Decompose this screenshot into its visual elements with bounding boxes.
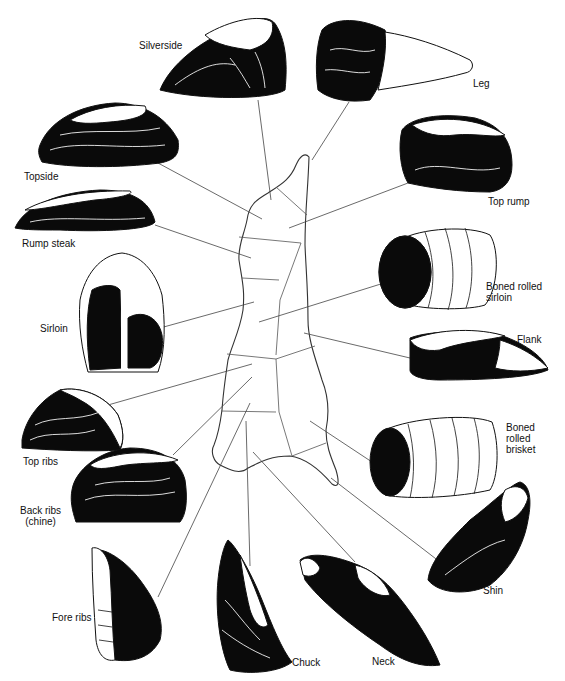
label-boned-rolled-sirloin: Boned rolled sirloin — [486, 281, 542, 303]
leader-flank — [304, 333, 410, 358]
label-neck: Neck — [372, 656, 395, 667]
label-rump-steak: Rump steak — [22, 238, 75, 249]
cut-top-rump-illustration — [400, 116, 512, 192]
label-back-ribs: Back ribs (chine) — [20, 505, 61, 527]
label-flank: Flank — [517, 334, 541, 345]
cut-leg-illustration — [316, 21, 472, 102]
cut-fore-ribs-illustration — [92, 548, 161, 661]
leader-silverside — [258, 100, 271, 200]
label-silverside: Silverside — [139, 40, 182, 51]
label-leg: Leg — [473, 78, 490, 89]
label-fore-ribs: Fore ribs — [52, 612, 91, 623]
label-boned-rolled-brisket: Boned rolled brisket — [506, 422, 535, 455]
label-shin: Shin — [483, 585, 503, 596]
cut-topside-illustration — [39, 103, 179, 167]
label-chuck: Chuck — [292, 657, 320, 668]
leader-rump-steak — [155, 225, 251, 258]
label-top-rump: Top rump — [488, 196, 530, 207]
cut-neck-illustration — [300, 555, 440, 665]
leader-neck — [253, 452, 355, 562]
leader-topside — [158, 163, 262, 219]
cut-sirloin-illustration — [79, 253, 164, 372]
cut-boned-rolled-sirloin-illustration — [379, 228, 496, 310]
cut-chuck-illustration — [217, 540, 292, 672]
cut-boned-rolled-brisket-illustration — [370, 417, 497, 498]
carcass-outline — [212, 155, 338, 486]
cut-back-ribs-illustration — [71, 448, 186, 522]
beef-cuts-diagram — [0, 0, 565, 681]
leader-leg — [312, 102, 349, 160]
label-sirloin: Sirloin — [40, 323, 68, 334]
cut-top-ribs-illustration — [22, 389, 123, 451]
cut-shin-illustration — [428, 482, 530, 592]
label-topside: Topside — [24, 171, 58, 182]
cut-rump-steak-illustration — [15, 190, 155, 231]
cut-silverside-illustration — [160, 18, 286, 97]
label-top-ribs: Top ribs — [23, 456, 58, 467]
